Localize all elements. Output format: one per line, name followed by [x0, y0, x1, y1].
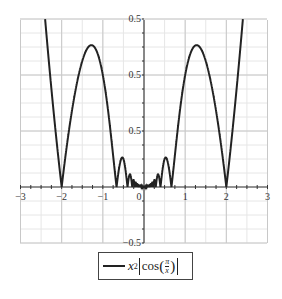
legend-func: cos	[142, 258, 159, 274]
svg-text:2: 2	[224, 191, 229, 202]
svg-text:0.5: 0.5	[129, 125, 142, 136]
plot-area: −3−2−101230.50.50.5−0.5	[0, 0, 282, 250]
legend-fraction: π x	[165, 258, 169, 275]
svg-text:−2: −2	[56, 191, 67, 202]
svg-text:0.5: 0.5	[129, 13, 142, 24]
legend-denominator: x	[165, 267, 169, 275]
svg-text:1: 1	[183, 191, 188, 202]
legend-line-swatch	[103, 265, 125, 267]
svg-text:−1: −1	[98, 191, 109, 202]
svg-text:0.5: 0.5	[129, 69, 142, 80]
svg-text:0: 0	[137, 191, 142, 202]
legend: x2 cos ( π x )	[98, 252, 193, 280]
legend-abs: cos ( π x )	[139, 258, 178, 275]
legend-exponent: 2	[134, 262, 138, 271]
svg-text:−0.5: −0.5	[123, 237, 141, 248]
svg-text:3: 3	[265, 191, 270, 202]
svg-text:−3: −3	[15, 191, 26, 202]
